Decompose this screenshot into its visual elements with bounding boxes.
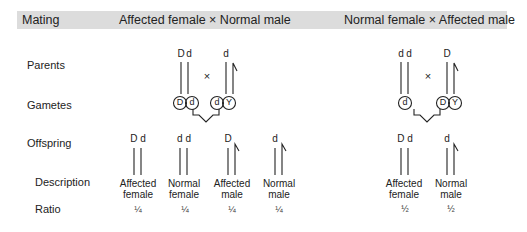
offspring-desc: Affectedmale — [211, 178, 253, 200]
offspring-desc: Affectedfemale — [117, 178, 159, 200]
gamete: d — [400, 97, 410, 107]
offspring-desc: Normalmale — [430, 178, 472, 200]
offspring-desc: Affectedfemale — [383, 178, 425, 200]
offspring-alleles: D d — [128, 133, 148, 144]
offspring-alleles: d d — [174, 133, 194, 144]
allele: D — [442, 48, 452, 59]
allele: d — [184, 48, 194, 59]
ratio: ¼ — [222, 204, 242, 214]
offspring-alleles: D — [223, 133, 233, 144]
gamete: d — [187, 97, 197, 107]
gamete: Y — [450, 97, 460, 107]
cross-symbol: × — [423, 70, 433, 82]
gamete: Y — [224, 97, 234, 107]
allele: d — [404, 48, 414, 59]
offspring-alleles: d — [442, 133, 452, 144]
offspring-alleles: d — [270, 133, 280, 144]
offspring-desc: Normalfemale — [163, 178, 205, 200]
gamete: D — [438, 97, 448, 107]
ratio: ½ — [441, 204, 461, 214]
gamete: D — [175, 97, 185, 107]
offspring-alleles: D d — [395, 133, 415, 144]
cross-symbol: × — [202, 70, 212, 82]
ratio: ¼ — [269, 204, 289, 214]
allele: d — [221, 48, 231, 59]
ratio: ¼ — [128, 204, 148, 214]
ratio: ½ — [395, 204, 415, 214]
gamete: d — [212, 97, 222, 107]
ratio: ¼ — [175, 204, 195, 214]
offspring-desc: Normalmale — [258, 178, 300, 200]
